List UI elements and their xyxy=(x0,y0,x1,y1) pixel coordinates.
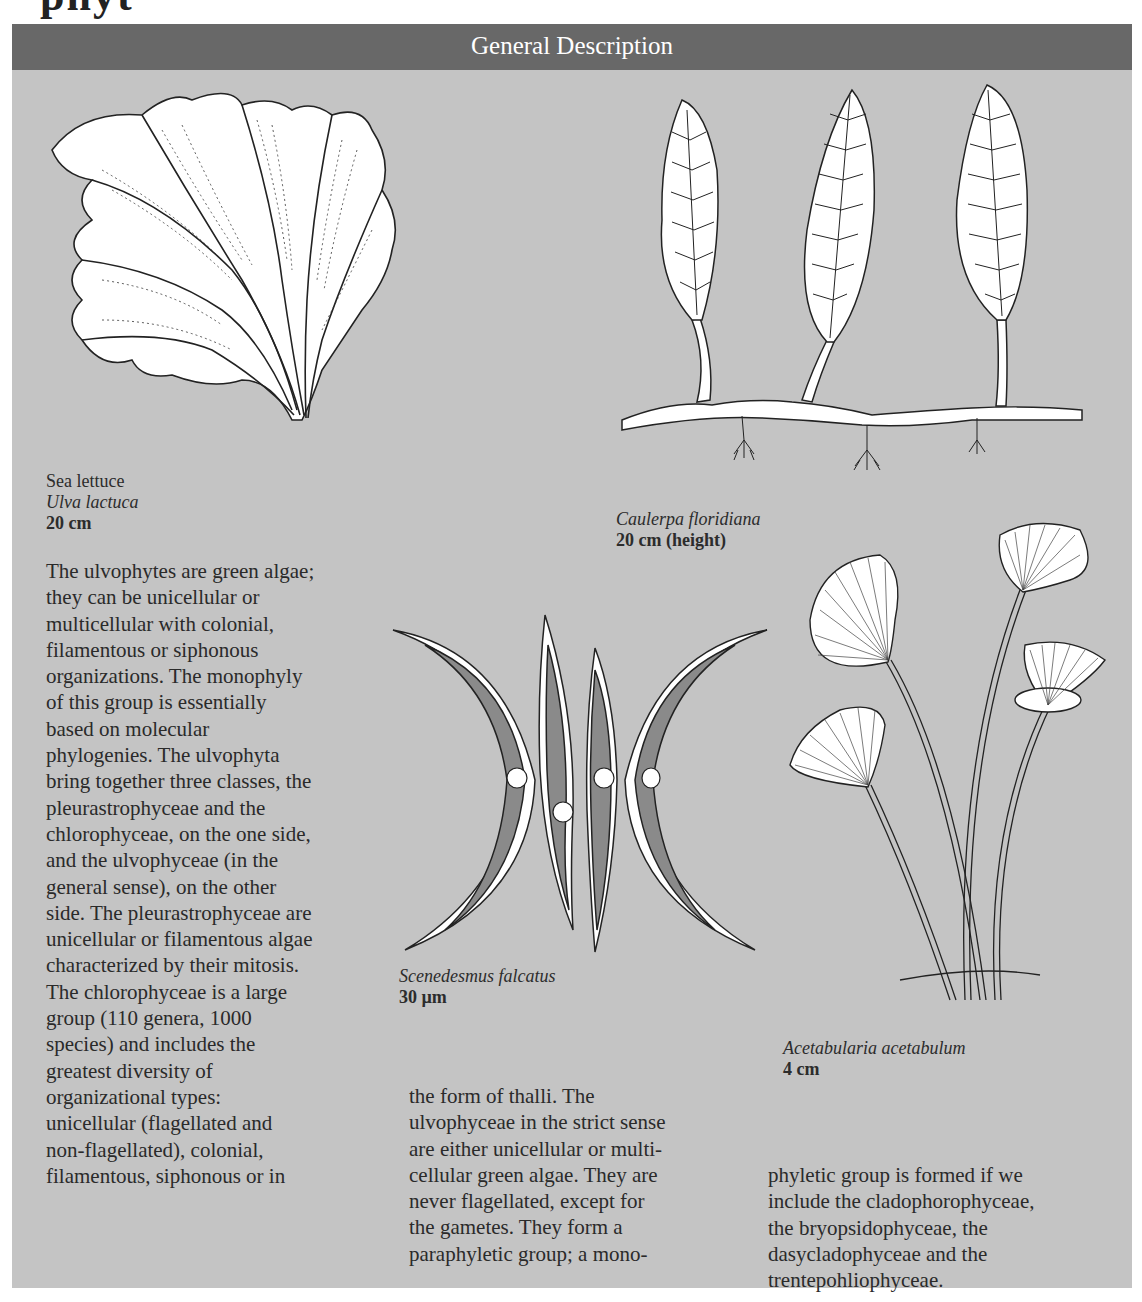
size-label: 4 cm xyxy=(783,1059,965,1080)
text-line: organizations. The monophyly xyxy=(46,663,314,689)
text-line: based on molecular xyxy=(46,716,314,742)
text-line: and the ulvophyceae (in the xyxy=(46,847,314,873)
text-line: organizational types: xyxy=(46,1084,314,1110)
text-line: ulvophyceae in the strict sense xyxy=(409,1109,666,1135)
page-title-fragment: phyt xyxy=(40,0,134,21)
text-line: species) and includes the xyxy=(46,1031,314,1057)
text-line: trentepohliophyceae. xyxy=(768,1267,1034,1293)
text-line: characterized by their mitosis. xyxy=(46,952,314,978)
scientific-name: Ulva lactuca xyxy=(46,492,138,513)
scientific-name: Acetabularia acetabulum xyxy=(783,1038,965,1059)
text-line: group (110 genera, 1000 xyxy=(46,1005,314,1031)
sea-lettuce-illustration xyxy=(42,80,422,440)
text-line: chlorophyceae, on the one side, xyxy=(46,821,314,847)
size-label: 30 µm xyxy=(399,987,555,1008)
section-header: General Description xyxy=(12,24,1132,70)
caption-sea-lettuce: Sea lettuce Ulva lactuca 20 cm xyxy=(46,471,138,534)
text-line: the form of thalli. The xyxy=(409,1083,666,1109)
text-line: phylogenies. The ulvophyta xyxy=(46,742,314,768)
text-line: unicellular or filamentous algae xyxy=(46,926,314,952)
text-line: the gametes. They form a xyxy=(409,1214,666,1240)
text-line: are either unicellular or multi- xyxy=(409,1136,666,1162)
text-line: side. The pleurastrophyceae are xyxy=(46,900,314,926)
text-line: bring together three classes, the xyxy=(46,768,314,794)
body-column-1: The ulvophytes are green algae; they can… xyxy=(46,558,314,1189)
text-line: filamentous, siphonous or in xyxy=(46,1163,314,1189)
text-line: pleurastrophyceae and the xyxy=(46,795,314,821)
scientific-name: Scenedesmus falcatus xyxy=(399,966,555,987)
text-line: phyletic group is formed if we xyxy=(768,1162,1034,1188)
text-line: greatest diversity of xyxy=(46,1058,314,1084)
caption-scenedesmus: Scenedesmus falcatus 30 µm xyxy=(399,966,555,1008)
text-line: general sense), on the other xyxy=(46,874,314,900)
acetabularia-illustration xyxy=(780,510,1120,1010)
body-column-2: the form of thalli. The ulvophyceae in t… xyxy=(409,1083,666,1267)
general-description-panel: General Description xyxy=(12,24,1132,1288)
text-line: paraphyletic group; a mono- xyxy=(409,1241,666,1267)
caption-caulerpa: Caulerpa floridiana 20 cm (height) xyxy=(616,509,761,551)
scientific-name: Caulerpa floridiana xyxy=(616,509,761,530)
text-line: filamentous or siphonous xyxy=(46,637,314,663)
text-line: of this group is essentially xyxy=(46,689,314,715)
text-line: the bryopsidophyceae, the xyxy=(768,1215,1034,1241)
body-column-3: phyletic group is formed if we include t… xyxy=(768,1162,1034,1293)
caption-acetabularia: Acetabularia acetabulum 4 cm xyxy=(783,1038,965,1080)
text-line: unicellular (flagellated and xyxy=(46,1110,314,1136)
text-line: dasycladophyceae and the xyxy=(768,1241,1034,1267)
scenedesmus-illustration xyxy=(385,590,775,970)
size-label: 20 cm (height) xyxy=(616,530,761,551)
common-name: Sea lettuce xyxy=(46,471,138,492)
text-line: cellular green algae. They are xyxy=(409,1162,666,1188)
text-line: The chlorophyceae is a large xyxy=(46,979,314,1005)
size-label: 20 cm xyxy=(46,513,138,534)
text-line: The ulvophytes are green algae; xyxy=(46,558,314,584)
text-line: non-flagellated), colonial, xyxy=(46,1137,314,1163)
caulerpa-illustration xyxy=(612,80,1092,490)
text-line: multicellular with colonial, xyxy=(46,611,314,637)
text-line: include the cladophorophyceae, xyxy=(768,1188,1034,1214)
text-line: never flagellated, except for xyxy=(409,1188,666,1214)
text-line: they can be unicellular or xyxy=(46,584,314,610)
